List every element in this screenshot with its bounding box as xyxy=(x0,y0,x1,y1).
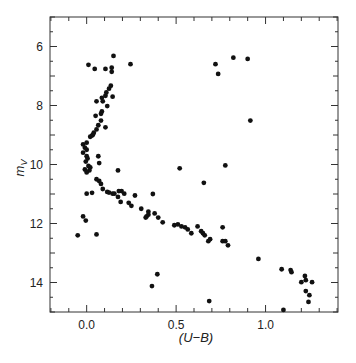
data-point xyxy=(100,99,105,104)
x-tick-label: 1.0 xyxy=(257,318,274,332)
plot-frame xyxy=(50,17,338,312)
data-point xyxy=(139,206,144,211)
y-tick-label: 12 xyxy=(30,217,44,231)
data-point xyxy=(103,67,108,72)
data-point xyxy=(216,72,221,77)
data-point xyxy=(107,190,112,195)
data-point xyxy=(185,227,190,232)
data-point xyxy=(109,69,114,74)
y-axis-label: mV xyxy=(12,159,29,177)
data-points xyxy=(75,54,314,313)
y-tick-label: 6 xyxy=(36,40,43,54)
data-point xyxy=(146,212,151,217)
data-point xyxy=(118,200,123,205)
data-point xyxy=(100,187,105,192)
data-point xyxy=(116,168,121,173)
data-point xyxy=(116,189,121,194)
data-point xyxy=(310,280,315,285)
data-point xyxy=(156,215,161,220)
data-point xyxy=(201,180,206,185)
data-point xyxy=(116,195,121,200)
data-point xyxy=(83,159,88,164)
data-point xyxy=(122,191,127,196)
x-axis-label: (U−B) xyxy=(179,330,213,345)
data-point xyxy=(96,154,101,159)
data-point xyxy=(90,190,95,195)
data-point xyxy=(220,225,225,230)
data-point xyxy=(84,140,89,145)
data-point xyxy=(110,94,115,99)
data-point xyxy=(109,65,114,70)
data-point xyxy=(206,239,211,244)
data-point xyxy=(150,192,155,197)
data-point xyxy=(155,272,160,277)
data-point xyxy=(133,193,138,198)
x-axis-tick-labels: 0.00.51.0 xyxy=(78,318,274,332)
y-axis-tick-labels: 68101214 xyxy=(30,40,44,290)
data-point xyxy=(281,308,286,313)
data-point xyxy=(223,239,228,244)
data-point xyxy=(152,211,157,216)
data-point xyxy=(99,118,104,123)
data-point xyxy=(103,125,108,130)
data-point xyxy=(96,123,101,128)
y-tick-label: 10 xyxy=(30,158,44,172)
data-point xyxy=(99,182,104,187)
data-point xyxy=(307,293,312,298)
y-tick-label: 8 xyxy=(36,99,43,113)
data-point xyxy=(150,284,155,289)
data-point xyxy=(303,289,308,294)
data-point xyxy=(75,233,80,238)
data-point xyxy=(248,118,253,123)
y-tick-label: 14 xyxy=(30,276,44,290)
data-point xyxy=(112,191,117,196)
data-point xyxy=(226,243,231,248)
data-point xyxy=(94,99,99,104)
data-point xyxy=(245,56,250,61)
y-axis-label-main: m xyxy=(12,165,27,176)
x-axis-ticks xyxy=(51,17,337,312)
data-point xyxy=(231,55,236,60)
data-point xyxy=(91,132,96,137)
color-magnitude-chart: 0.00.51.0 68101214 (U−B) mV xyxy=(0,0,356,363)
data-point xyxy=(97,161,102,166)
y-axis-ticks xyxy=(50,17,338,312)
data-point xyxy=(94,232,99,237)
data-point xyxy=(299,280,304,285)
svg-text:mV: mV xyxy=(12,159,29,177)
data-point xyxy=(213,62,218,67)
data-point xyxy=(83,218,88,223)
data-point xyxy=(81,214,86,219)
data-point xyxy=(86,164,91,169)
data-point xyxy=(289,270,294,275)
data-point xyxy=(86,62,91,67)
data-point xyxy=(303,274,308,279)
data-point xyxy=(207,299,212,304)
data-point xyxy=(105,104,110,109)
data-point xyxy=(128,62,133,67)
data-point xyxy=(189,231,194,236)
data-point xyxy=(195,224,200,229)
data-point xyxy=(84,147,89,152)
data-point xyxy=(93,113,98,118)
y-axis-label-sub: V xyxy=(19,159,29,166)
x-tick-label: 0.0 xyxy=(78,318,95,332)
data-point xyxy=(111,54,116,59)
data-point xyxy=(84,170,89,175)
data-point xyxy=(223,163,228,168)
data-point xyxy=(84,191,89,196)
data-point xyxy=(92,67,97,72)
data-point xyxy=(160,220,165,225)
data-point xyxy=(202,233,207,238)
data-point xyxy=(303,278,308,283)
data-point xyxy=(129,203,134,208)
data-point xyxy=(177,166,182,171)
data-point xyxy=(256,257,261,262)
data-point xyxy=(99,111,104,116)
data-point xyxy=(279,267,284,272)
data-point xyxy=(306,300,311,305)
